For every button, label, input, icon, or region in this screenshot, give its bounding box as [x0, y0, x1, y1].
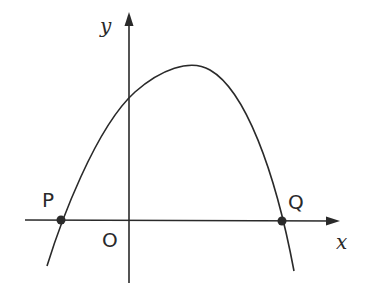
origin-label: O	[102, 230, 118, 250]
y-axis-arrow-icon	[125, 12, 134, 26]
parabola-curve	[47, 65, 294, 271]
y-axis-label: y	[100, 16, 111, 36]
parabola-diagram: y x O P Q	[0, 0, 366, 299]
point-q-label: Q	[288, 192, 304, 212]
x-axis-label: x	[336, 232, 347, 252]
graph-canvas	[0, 0, 366, 299]
y-axis	[125, 12, 134, 283]
point-p-label: P	[42, 190, 54, 210]
x-axis-arrow-icon	[326, 217, 340, 226]
point-q-marker	[278, 217, 287, 226]
point-p-marker	[57, 216, 66, 225]
x-axis	[25, 217, 340, 226]
